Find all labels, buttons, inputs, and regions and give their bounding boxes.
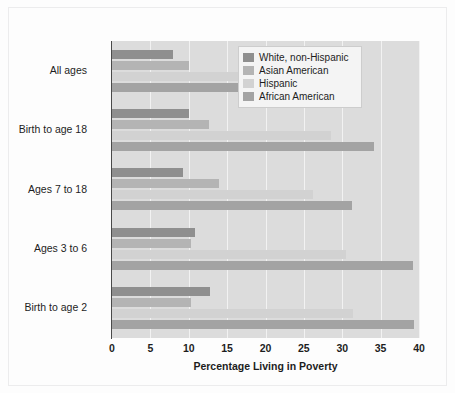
bar: [112, 168, 183, 177]
bar: [112, 320, 414, 329]
x-axis-tick-label: 40: [399, 342, 439, 354]
legend-item: White, non-Hispanic: [243, 51, 356, 64]
legend-swatch-icon: [243, 66, 254, 75]
bar: [112, 309, 353, 318]
legend-swatch-icon: [243, 92, 254, 101]
x-axis-tick-label: 25: [284, 342, 324, 354]
x-axis-tick-label: 20: [246, 342, 286, 354]
x-axis-tick-label: 35: [361, 342, 401, 354]
bar: [112, 239, 191, 248]
legend-item: Asian American: [243, 64, 356, 77]
bar: [112, 190, 313, 199]
bar: [112, 250, 346, 259]
bar: [112, 120, 209, 129]
chart-legend: White, non-HispanicAsian AmericanHispani…: [238, 46, 362, 108]
chart-figure: All agesBirth to age 18Ages 7 to 18Ages …: [0, 0, 455, 393]
x-axis-title: Percentage Living in Poverty: [112, 360, 419, 372]
legend-swatch-icon: [243, 79, 254, 88]
x-axis-tick-label: 10: [169, 342, 209, 354]
bar: [112, 179, 219, 188]
bar: [112, 287, 210, 296]
y-axis-label: Ages 3 to 6: [0, 242, 87, 254]
bar: [112, 142, 374, 151]
y-axis-label: Birth to age 2: [0, 301, 87, 313]
x-axis-tick-label: 5: [130, 342, 170, 354]
bar: [112, 201, 352, 210]
x-axis-tick-label: 30: [322, 342, 362, 354]
y-axis-label: Ages 7 to 18: [0, 183, 87, 195]
x-axis-tick-label: 15: [207, 342, 247, 354]
x-axis-tick-label: 0: [92, 342, 132, 354]
bar: [112, 50, 173, 59]
bar: [112, 298, 191, 307]
figure-frame: All agesBirth to age 18Ages 7 to 18Ages …: [8, 7, 447, 386]
bar: [112, 228, 195, 237]
legend-item: Hispanic: [243, 77, 356, 90]
legend-item-label: Hispanic: [259, 78, 297, 89]
legend-item-label: Asian American: [259, 65, 328, 76]
y-axis-label: All ages: [0, 64, 87, 76]
legend-item-label: White, non-Hispanic: [259, 52, 348, 63]
bar: [112, 131, 331, 140]
bar: [112, 61, 189, 70]
legend-swatch-icon: [243, 53, 254, 62]
legend-item: African American: [243, 90, 356, 103]
bar: [112, 109, 189, 118]
y-axis-label: Birth to age 18: [0, 123, 87, 135]
legend-item-label: African American: [259, 91, 335, 102]
bar: [112, 261, 413, 270]
